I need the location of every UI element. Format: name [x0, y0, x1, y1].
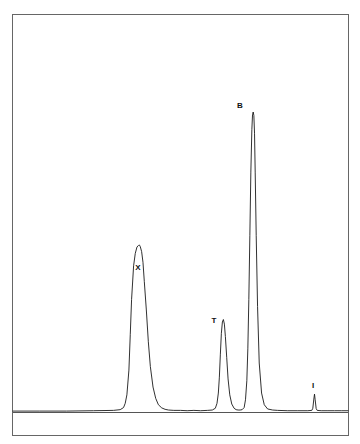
- chromatogram-plot: [0, 0, 360, 444]
- plot-frame: [13, 15, 349, 436]
- peak-label-b: B: [237, 102, 243, 110]
- peak-label-x: X: [135, 264, 140, 272]
- peak-label-t: T: [212, 317, 217, 325]
- peak-label-i: I: [312, 382, 314, 390]
- signal-trace: [13, 112, 348, 411]
- chromatogram-figure: X T B I: [0, 0, 360, 444]
